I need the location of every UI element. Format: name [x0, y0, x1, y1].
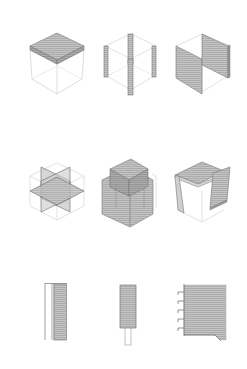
floor-section-diagram — [176, 284, 228, 344]
column-section-diagram — [119, 284, 137, 346]
corner-columns-diagram — [101, 32, 159, 98]
stacked-volumes-diagram — [100, 158, 160, 228]
open-frame-diagram — [172, 160, 236, 226]
intersecting-planes-diagram — [28, 160, 86, 226]
wall-section-diagram — [44, 283, 68, 341]
opposing-walls-diagram — [172, 32, 234, 98]
roof-slab-diagram — [28, 32, 86, 96]
